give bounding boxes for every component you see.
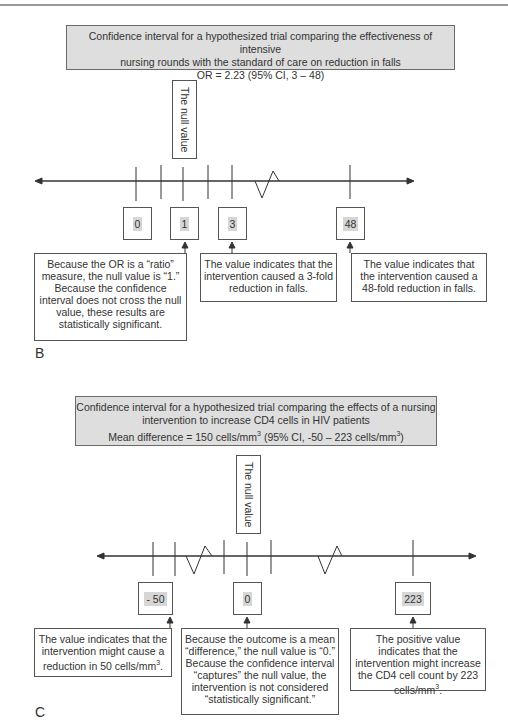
panel-b-note-lower: The value indicates that the interventio… (200, 253, 337, 302)
panel-c-banner-line1: Confidence interval for a hypothesized t… (76, 401, 436, 414)
panel-b-value-48: 48 (336, 207, 365, 240)
panel-c-banner: Confidence interval for a hypothesized t… (75, 396, 437, 446)
panel-c-null-value-label: The null value (236, 455, 261, 534)
value-text: 0 (133, 217, 143, 231)
panel-c-value-0: 0 (233, 582, 262, 615)
value-text: 3 (228, 217, 238, 231)
banner-text: Mean difference = 150 cells/mm (108, 431, 257, 443)
panel-c-banner-line3: Mean difference = 150 cells/mm3 (95% CI,… (76, 427, 436, 444)
note-text: . (160, 660, 163, 672)
panel-c-value-minus50: - 50 (138, 582, 173, 615)
value-text: - 50 (144, 592, 166, 606)
panel-b-value-1: 1 (170, 207, 199, 240)
null-value-text: The null value (243, 462, 255, 527)
note-text: Because the outcome is a mean “differenc… (185, 633, 335, 705)
panel-b-label: B (35, 345, 44, 361)
note-text: The positive value indicates that the in… (355, 633, 480, 696)
note-text: The value indicates that the interventio… (39, 633, 167, 672)
banner-text: (95% CI, -50 – 223 cells/mm (261, 431, 396, 443)
note-text: . (439, 684, 442, 696)
panel-b-note-null: Because the OR is a “ratio” measure, the… (34, 253, 187, 341)
panel-c-label: C (35, 704, 45, 720)
note-text: Because the OR is a “ratio” measure, the… (40, 258, 182, 330)
banner-text: ) (400, 431, 404, 443)
value-text: 1 (180, 217, 190, 231)
panel-c-note-null: Because the outcome is a mean “differenc… (181, 628, 339, 715)
value-text: 223 (402, 592, 424, 606)
panel-b-value-3: 3 (218, 207, 247, 240)
number-lines (0, 0, 508, 724)
note-text: The value indicates that the interventio… (204, 258, 333, 294)
note-text: The value indicates that the interventio… (360, 258, 477, 294)
panel-c-value-223: 223 (395, 582, 431, 615)
panel-c-note-lower: The value indicates that the interventio… (34, 628, 172, 677)
value-text: 48 (343, 217, 359, 231)
value-text: 0 (243, 592, 253, 606)
panel-b-note-upper: The value indicates that the interventio… (351, 253, 487, 302)
panel-c-banner-line2: intervention to increase CD4 cells in HI… (76, 414, 436, 427)
panel-c-note-upper: The positive value indicates that the in… (350, 628, 486, 691)
panel-b-value-0: 0 (123, 207, 152, 240)
